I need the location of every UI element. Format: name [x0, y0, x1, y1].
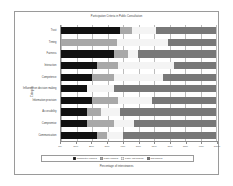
bar-segment [61, 85, 87, 92]
bar-rows [61, 25, 216, 141]
y-axis-tick-label: Interaction [17, 60, 59, 72]
x-axis-tick-label: 0% [58, 145, 62, 148]
x-axis-tick-label: 30% [105, 145, 110, 148]
x-axis-tick [123, 141, 124, 144]
bar-row [61, 83, 216, 95]
bar-row [61, 60, 216, 72]
x-axis-tick [170, 141, 171, 144]
bar-segment [107, 132, 123, 139]
bar-segment [97, 62, 119, 69]
legend-label: Completely fulfilled [77, 157, 97, 160]
legend-label: Partly fulfilled [104, 157, 118, 160]
x-axis-tick-label: 80% [183, 145, 188, 148]
x-axis-tick [201, 141, 202, 144]
legend-item[interactable]: Partly fulfilled [100, 157, 118, 160]
bar-segment [92, 97, 118, 104]
bar-row [61, 71, 216, 83]
bar-segment [61, 74, 92, 81]
bar-row [61, 129, 216, 141]
legend-item[interactable]: Completely fulfilled [73, 157, 97, 160]
bar-segment [61, 27, 120, 34]
x-axis-tick-label: 90% [199, 145, 204, 148]
bar-segment [134, 120, 216, 127]
x-axis-tick-label: 20% [89, 145, 94, 148]
x-axis-tick [107, 141, 108, 144]
bar-segment [61, 39, 117, 46]
legend-swatch [73, 157, 76, 160]
x-axis-tick-label: 10% [73, 145, 78, 148]
bar-segment [101, 108, 120, 115]
bar-segment [174, 62, 216, 69]
plot-area [60, 25, 217, 141]
bar-segment [128, 50, 139, 57]
bar-segment [87, 85, 113, 92]
x-axis-tick-labels: 0%10%20%30%40%50%60%70%80%90%100% [60, 145, 217, 150]
bar-segment [114, 85, 216, 92]
x-axis-tick [186, 141, 187, 144]
bar-segment [87, 120, 113, 127]
stacked-bar [61, 132, 216, 139]
y-axis-tick-label: Accessibility [17, 106, 59, 118]
legend-label: Partly not fulfilled [125, 157, 143, 160]
bar-segment [114, 120, 134, 127]
x-axis-tick-label: 100% [214, 145, 220, 148]
bar-row [61, 37, 216, 49]
bar-segment [114, 74, 164, 81]
bar-segment [123, 132, 216, 139]
bar-row [61, 118, 216, 130]
y-axis-tick-labels: TrustTimingFairnessInteractionCompetence… [17, 25, 59, 141]
legend-item[interactable]: Partly not fulfilled [121, 157, 143, 160]
legend-swatch [147, 157, 150, 160]
stacked-bar [61, 62, 216, 69]
bar-segment [152, 97, 216, 104]
bar-segment [87, 108, 101, 115]
y-axis-tick-label: Compromise [17, 118, 59, 130]
bar-segment [118, 62, 174, 69]
bar-row [61, 25, 216, 37]
bar-segment [138, 50, 216, 57]
bar-segment [120, 108, 216, 115]
bar-row [61, 95, 216, 107]
stacked-bar [61, 74, 216, 81]
bar-segment [61, 62, 97, 69]
y-axis-tick-label: Timing [17, 37, 59, 49]
x-axis-tick [91, 141, 92, 144]
stacked-bar [61, 120, 216, 127]
bar-segment [97, 132, 108, 139]
y-axis-tick-label: Fairness [17, 48, 59, 60]
bar-segment [120, 27, 132, 34]
y-axis-tick-label: Communication [17, 129, 59, 141]
bar-segment [61, 132, 97, 139]
bar-segment [163, 74, 216, 81]
stacked-bar [61, 108, 216, 115]
bar-segment [114, 50, 128, 57]
x-axis-tick-label: 50% [136, 145, 141, 148]
bar-segment [92, 74, 114, 81]
stacked-bar [61, 97, 216, 104]
y-axis-tick-label: Competence [17, 71, 59, 83]
bar-row [61, 106, 216, 118]
bar-segment [117, 39, 168, 46]
stacked-bar [61, 39, 216, 46]
bar-segment [61, 108, 87, 115]
bar-segment [61, 97, 92, 104]
x-axis-tick [154, 141, 155, 144]
legend-item[interactable]: Not fulfilled [147, 157, 163, 160]
x-axis-tick-label: 60% [152, 145, 157, 148]
x-axis-tick [60, 141, 61, 144]
legend-swatch [100, 157, 103, 160]
chart-title: Participation Criteria in Public Consult… [15, 15, 218, 18]
chart-figure: Participation Criteria in Public Consult… [14, 11, 219, 175]
legend-swatch [121, 157, 124, 160]
gridline [216, 25, 217, 141]
bar-segment [61, 50, 114, 57]
bar-segment [132, 27, 155, 34]
y-axis-tick-label: Information provision [17, 95, 59, 107]
bar-segment [168, 39, 216, 46]
x-axis-tick [139, 141, 140, 144]
chart-legend: Completely fulfilledPartly fulfilledPart… [41, 155, 194, 162]
x-axis-tick [217, 141, 218, 144]
stacked-bar [61, 27, 216, 34]
stacked-bar [61, 85, 216, 92]
x-axis-tick-label: 70% [167, 145, 172, 148]
